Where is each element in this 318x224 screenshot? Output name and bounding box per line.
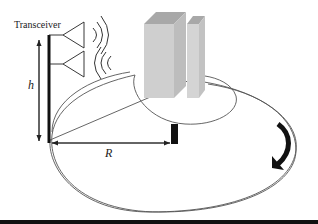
height-label: h — [28, 78, 34, 92]
rotation-arrow — [272, 124, 289, 170]
transceiver-label: Transceiver — [14, 19, 62, 30]
radius-label: R — [104, 146, 113, 160]
bottom-rule — [0, 220, 318, 224]
lower-antenna — [49, 51, 84, 77]
transceiver-coverage-diagram: h R Transceiver — [0, 0, 318, 224]
short-building — [187, 16, 205, 98]
receiver-post — [171, 124, 178, 144]
tall-building — [144, 12, 186, 98]
outgoing-radio-waves — [93, 16, 109, 54]
